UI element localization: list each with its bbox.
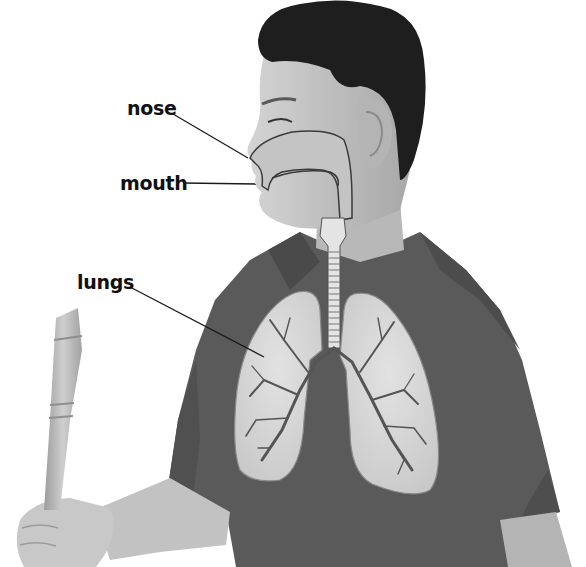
label-nose: nose: [127, 99, 177, 118]
right-arm: [500, 512, 572, 567]
label-lungs: lungs: [77, 273, 134, 292]
recorder-instrument: [44, 308, 82, 510]
mouth-leader-line: [183, 183, 256, 184]
respiratory-diagram: nose mouth lungs: [0, 0, 586, 567]
label-mouth: mouth: [120, 174, 188, 193]
nose-leader-line: [173, 114, 248, 158]
